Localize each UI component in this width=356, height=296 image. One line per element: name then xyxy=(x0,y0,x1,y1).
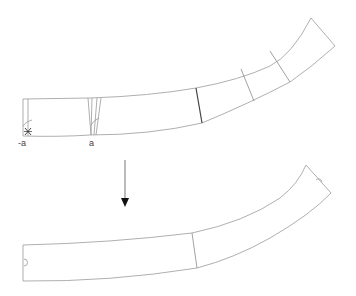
top-divider-3 xyxy=(270,51,290,82)
arrow-head-icon xyxy=(121,198,129,207)
left-hinge-mark xyxy=(23,120,32,126)
bottom-divider xyxy=(192,233,197,268)
diagram-canvas: -a a xyxy=(0,0,356,296)
top-strip: -a a xyxy=(18,18,335,148)
cut-a-lines xyxy=(88,98,101,135)
top-divider-1 xyxy=(196,88,202,123)
down-arrow xyxy=(121,160,129,207)
label-a: a xyxy=(89,138,94,148)
bottom-strip xyxy=(23,165,331,281)
top-strip-outline xyxy=(23,18,335,136)
left-notch-mark xyxy=(24,259,28,266)
bottom-strip-outline xyxy=(23,165,331,281)
label-minus-a: -a xyxy=(18,138,26,148)
